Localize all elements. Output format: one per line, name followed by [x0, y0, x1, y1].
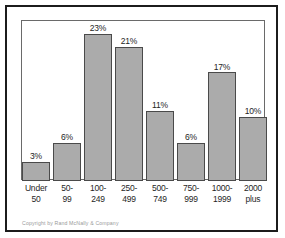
x-label-under-50: Under 50 — [22, 183, 50, 205]
x-label-100-249: 100- 249 — [84, 183, 112, 205]
x-axis-labels: Under 50 50- 99 100- 249 250- 499 500- 7… — [22, 183, 268, 213]
x-label-2000-plus-line1: 2000 — [244, 183, 262, 193]
bar-100-249[interactable] — [84, 34, 112, 181]
x-label-under-50-line2: 50 — [22, 194, 50, 205]
x-label-1000-1999-line1: 1000- — [212, 183, 233, 193]
x-label-2000-plus-line2: plus — [239, 194, 267, 205]
bar-2000-plus[interactable] — [239, 117, 267, 181]
x-label-1000-1999-line2: 1999 — [208, 194, 236, 205]
x-label-500-749-line1: 500- — [152, 183, 168, 193]
bar-value-750-999: 6% — [185, 132, 197, 142]
x-label-500-749: 500- 749 — [146, 183, 174, 205]
bar-slot-2000-plus: 10% — [239, 21, 267, 181]
x-label-1000-1999: 1000- 1999 — [208, 183, 236, 205]
bar-250-499[interactable] — [115, 47, 143, 181]
bar-value-100-249: 23% — [90, 23, 106, 33]
x-label-750-999-line1: 750- — [183, 183, 199, 193]
bar-500-749[interactable] — [146, 111, 174, 181]
bar-value-1000-1999: 17% — [214, 62, 230, 72]
bar-slot-under-50: 3% — [22, 21, 50, 181]
x-label-500-749-line2: 749 — [146, 194, 174, 205]
x-label-250-499-line2: 499 — [115, 194, 143, 205]
x-label-under-50-line1: Under — [25, 183, 47, 193]
x-label-750-999: 750- 999 — [177, 183, 205, 205]
bar-slot-250-499: 21% — [115, 21, 143, 181]
x-label-50-99-line2: 99 — [53, 194, 81, 205]
bar-under-50[interactable] — [22, 162, 50, 181]
copyright-notice: Copyright by Rand McNally & Company — [22, 220, 119, 226]
bar-slot-100-249: 23% — [84, 21, 112, 181]
x-label-750-999-line2: 999 — [177, 194, 205, 205]
x-label-100-249-line2: 249 — [84, 194, 112, 205]
x-label-100-249-line1: 100- — [90, 183, 106, 193]
chart-figure: 3% 6% 23% 21% 11% 6% 17% 10% — [5, 5, 278, 232]
x-label-250-499: 250- 499 — [115, 183, 143, 205]
x-label-50-99-line1: 50- — [61, 183, 73, 193]
bar-value-2000-plus: 10% — [245, 106, 261, 116]
bar-slot-750-999: 6% — [177, 21, 205, 181]
x-label-250-499-line1: 250- — [121, 183, 137, 193]
bar-value-under-50: 3% — [30, 151, 42, 161]
bar-value-500-749: 11% — [152, 100, 168, 110]
bar-1000-1999[interactable] — [208, 72, 236, 181]
x-label-2000-plus: 2000 plus — [239, 183, 267, 205]
bar-slot-1000-1999: 17% — [208, 21, 236, 181]
bar-series: 3% 6% 23% 21% 11% 6% 17% 10% — [22, 21, 268, 181]
x-label-50-99: 50- 99 — [53, 183, 81, 205]
bar-50-99[interactable] — [53, 143, 81, 181]
bar-value-250-499: 21% — [121, 36, 137, 46]
bar-slot-500-749: 11% — [146, 21, 174, 181]
bar-slot-50-99: 6% — [53, 21, 81, 181]
bar-750-999[interactable] — [177, 143, 205, 181]
bar-value-50-99: 6% — [61, 132, 73, 142]
